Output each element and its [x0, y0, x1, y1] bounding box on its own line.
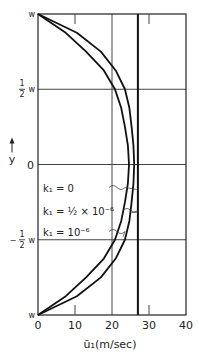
x-tick-label: 20 — [105, 319, 119, 332]
labels: 010203040ww120w−12wyū₁(m/sec) — [9, 10, 193, 351]
y-tick-label: 0 — [27, 159, 34, 172]
y-tick-label-numerator: 1 — [19, 79, 24, 88]
y-tick-label: w — [28, 85, 35, 94]
y-axis-label: y — [9, 153, 16, 166]
y-tick-label-denominator: 2 — [19, 90, 24, 99]
legend: k₁ = 0k₁ = ½ × 10⁻⁶k₁ = 10⁻⁶ — [43, 183, 139, 238]
y-tick-label-minus: − — [10, 236, 17, 245]
y-axis-arrow-head — [10, 138, 15, 144]
legend-label: k₁ = 10⁻⁶ — [43, 227, 90, 238]
y-tick-label: w — [28, 236, 35, 245]
y-tick-label-denominator: 2 — [19, 241, 24, 250]
y-tick-label-numerator: 1 — [19, 230, 24, 239]
y-tick-label: w — [28, 10, 35, 19]
velocity-profile-chart: 010203040ww120w−12wyū₁(m/sec) k₁ = 0k₁ =… — [0, 0, 199, 352]
legend-label: k₁ = 0 — [43, 183, 74, 194]
legend-label: k₁ = ½ × 10⁻⁶ — [43, 206, 114, 217]
x-axis-label: ū₁(m/sec) — [84, 338, 137, 351]
x-tick-label: 40 — [179, 319, 193, 332]
x-tick-label: 10 — [68, 319, 82, 332]
x-tick-label: 30 — [142, 319, 156, 332]
y-tick-label: w — [28, 311, 35, 320]
grid — [38, 14, 186, 315]
x-tick-label: 0 — [35, 319, 42, 332]
